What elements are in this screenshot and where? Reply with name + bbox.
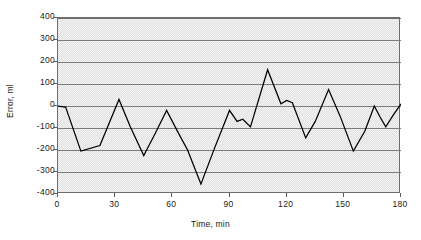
x-tick-label: 60 — [151, 200, 191, 209]
x-tick-label: 180 — [380, 200, 420, 209]
y-tick-label: 300 — [15, 34, 55, 43]
x-tick-mark — [114, 193, 115, 197]
y-tick-mark — [53, 105, 57, 106]
data-line-svg — [58, 18, 401, 194]
x-tick-label: 120 — [266, 200, 306, 209]
x-axis-title: Time, min — [0, 219, 421, 229]
x-tick-mark — [343, 193, 344, 197]
x-tick-label: 150 — [323, 200, 363, 209]
y-tick-mark — [53, 61, 57, 62]
y-tick-mark — [53, 193, 57, 194]
x-tick-mark — [229, 193, 230, 197]
chart-figure: Error, ml 4003002001000-100-200-300-400 … — [0, 0, 421, 240]
y-tick-mark — [53, 83, 57, 84]
x-tick-label: 0 — [37, 200, 77, 209]
x-tick-label: 30 — [94, 200, 134, 209]
y-tick-label: 0 — [15, 100, 55, 109]
gridlines — [58, 19, 401, 195]
series-error-line — [58, 70, 401, 184]
y-tick-mark — [53, 127, 57, 128]
plot-area — [57, 17, 400, 193]
y-tick-label: -400 — [15, 188, 55, 197]
x-tick-mark — [57, 193, 58, 197]
y-tick-mark — [53, 17, 57, 18]
y-tick-label: 400 — [15, 12, 55, 21]
x-tick-mark — [400, 193, 401, 197]
y-tick-mark — [53, 39, 57, 40]
x-tick-label: 90 — [209, 200, 249, 209]
x-tick-mark — [171, 193, 172, 197]
y-tick-mark — [53, 171, 57, 172]
y-tick-label: -300 — [15, 166, 55, 175]
y-tick-label: 200 — [15, 56, 55, 65]
y-tick-label: -200 — [15, 144, 55, 153]
y-tick-mark — [53, 149, 57, 150]
x-tick-mark — [286, 193, 287, 197]
y-tick-label: -100 — [15, 122, 55, 131]
y-tick-label: 100 — [15, 78, 55, 87]
